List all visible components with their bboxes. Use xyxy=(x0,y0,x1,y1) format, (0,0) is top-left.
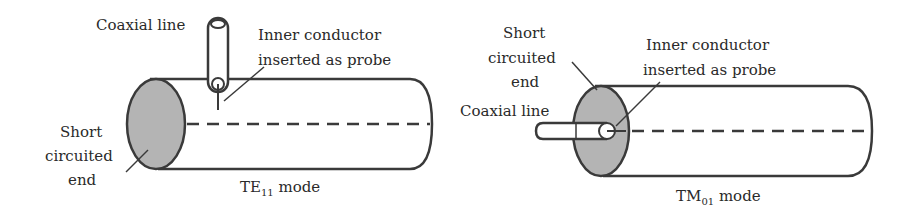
te11-inner-conductor-label-1: Inner conductor xyxy=(258,26,382,44)
te11-mode-label: TE11 mode xyxy=(240,178,320,198)
tm01-coaxial-line xyxy=(536,123,607,139)
tm01-mode-label: TM01 mode xyxy=(676,187,761,207)
te11-short-circuited-end xyxy=(127,79,185,169)
tm01-inner-conductor-label-1: Inner conductor xyxy=(646,36,770,54)
tm01-inner-conductor-label-2: inserted as probe xyxy=(643,61,776,79)
tm01-short-label-2: circuited xyxy=(488,49,556,67)
tm01-figure: Short circuited end Inner conductor inse… xyxy=(460,24,872,207)
te11-figure: Coaxial line Inner conductor inserted as… xyxy=(45,16,432,198)
waveguide-diagram: Coaxial line Inner conductor inserted as… xyxy=(0,0,917,217)
te11-inner-conductor-label-2: inserted as probe xyxy=(258,51,391,69)
te11-short-label-2: circuited xyxy=(45,147,113,165)
tm01-short-label-1: Short xyxy=(503,24,545,42)
tm01-short-label-3: end xyxy=(511,73,540,91)
te11-short-label-3: end xyxy=(68,171,97,189)
te11-short-label-1: Short xyxy=(60,123,102,141)
te11-coaxial-line-label: Coaxial line xyxy=(96,16,185,34)
tm01-coaxial-line-label: Coaxial line xyxy=(460,102,549,120)
te11-coaxial-line xyxy=(208,18,228,92)
